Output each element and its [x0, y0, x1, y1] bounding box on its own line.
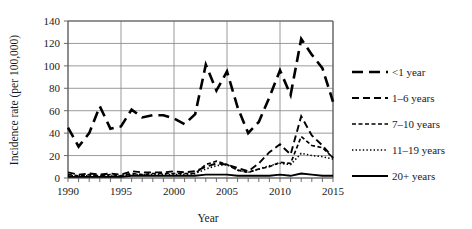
x-tick-label: 2010 — [269, 185, 292, 197]
legend-label-3: 11–19 years — [392, 144, 445, 156]
y-tick-label: 120 — [44, 37, 61, 49]
data-series-group — [68, 39, 333, 177]
y-tick-label: 0 — [55, 172, 61, 184]
x-tick-label: 2005 — [216, 185, 239, 197]
series-line-0 — [68, 39, 333, 147]
y-tick-label: 80 — [49, 82, 61, 94]
y-tick-label: 140 — [44, 15, 61, 27]
chart-legend: <1 year1–6 years7–10 years11–19 years20+… — [352, 66, 445, 182]
y-axis-tick-labels: 020406080100120140 — [44, 15, 61, 184]
y-axis-title: Incidence rate (per 100,000) — [8, 35, 21, 165]
series-line-3 — [68, 153, 333, 175]
y-tick-label: 60 — [49, 105, 61, 117]
x-tick-label: 2000 — [163, 185, 186, 197]
legend-label-0: <1 year — [392, 66, 426, 78]
x-tick-label: 1995 — [110, 185, 133, 197]
x-axis-title: Year — [197, 212, 218, 224]
chart-canvas: 020406080100120140 199019952000200520102… — [0, 0, 472, 229]
y-tick-label: 40 — [49, 127, 61, 139]
axis-lines — [68, 21, 333, 178]
x-tick-label: 2015 — [322, 185, 345, 197]
x-axis-tick-labels: 199019952000200520102015 — [57, 185, 345, 197]
legend-label-1: 1–6 years — [392, 92, 434, 104]
y-tick-label: 100 — [44, 60, 61, 72]
legend-label-2: 7–10 years — [392, 118, 440, 130]
grid-lines — [68, 21, 333, 178]
x-tick-label: 1990 — [57, 185, 80, 197]
legend-label-4: 20+ years — [392, 170, 435, 182]
y-tick-label: 20 — [49, 150, 61, 162]
incidence-rate-line-chart: 020406080100120140 199019952000200520102… — [0, 0, 472, 229]
